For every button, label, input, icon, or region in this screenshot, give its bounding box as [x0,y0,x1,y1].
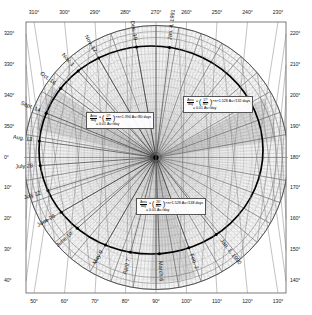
axis-tick-bottom-1: 60° [61,299,69,304]
left-paren: ( [199,99,201,106]
equation-lhs-fraction: Area day [90,115,98,122]
axis-tick-left-4: 0° [4,155,9,160]
axis-tick-left-2: 340° [4,93,14,98]
equation-box-sweep-upper-left: Area day = ( 17° 360° ) ×π×1.394 Au²/80 … [86,112,154,129]
axis-tick-bottom-2: 70° [91,299,99,304]
axis-tick-top-8: 230° [273,10,283,15]
equation-lhs-fraction: Area day [187,99,195,106]
axis-tick-top-7: 240° [242,10,252,15]
polar-plot-canvas [0,0,312,315]
axis-tick-top-1: 300° [59,10,69,15]
axis-tick-bottom-3: 80° [122,299,130,304]
equation-result: = 0.01 Au²/day [89,123,151,127]
axis-tick-top-2: 290° [90,10,100,15]
axis-tick-bottom-5: 100° [181,299,191,304]
equation-rhs: ×π×1.394 Au²/80 days [115,116,151,120]
axis-tick-bottom-7: 120° [242,299,252,304]
equation-result: = 0.01 Au²/day [139,209,203,213]
left-paren: ( [152,201,154,208]
equation-angle-fraction: 26° 360° [155,201,162,208]
equation-box-sweep-lower: Area day = ( 26° 360° ) ×π×1.528 Au²/148… [136,198,206,215]
axis-tick-top-0: 310° [29,10,39,15]
axis-tick-left-5: 10° [4,186,12,191]
equation-lhs-fraction: Area day [140,201,148,208]
axis-tick-bottom-6: 110° [212,299,222,304]
axis-tick-right-3: 190° [290,124,300,129]
axis-tick-left-7: 30° [4,248,12,253]
axis-tick-right-4: 180° [290,155,300,160]
axis-tick-top-5: 260° [181,10,191,15]
axis-tick-bottom-0: 50° [30,299,38,304]
axis-tick-right-7: 150° [290,248,300,253]
axis-tick-right-0: 220° [290,31,300,36]
left-paren: ( [102,115,104,122]
axis-tick-left-8: 40° [4,278,12,283]
axis-tick-right-5: 170° [290,186,300,191]
axis-tick-right-8: 140° [290,278,300,283]
equation-angle-fraction: 17° 360° [202,99,209,106]
axis-tick-right-2: 200° [290,93,300,98]
axis-tick-right-1: 210° [290,62,300,67]
axis-tick-left-0: 320° [4,31,14,36]
equation-angle-fraction: 17° 360° [105,115,112,122]
axis-tick-left-6: 20° [4,217,12,222]
axis-tick-top-6: 250° [212,10,222,15]
axis-tick-top-3: 280° [120,10,130,15]
axis-tick-right-6: 160° [290,217,300,222]
equation-rhs: ×π×1.528 Au²/132 days [212,100,250,104]
axis-tick-top-4: 270° [151,10,161,15]
equation-box-sweep-upper-right: Area day = ( 17° 360° ) ×π×1.528 Au²/132… [183,96,253,113]
axis-tick-bottom-8: 130° [273,299,283,304]
axis-tick-left-1: 330° [4,62,14,67]
polar-orbit-figure: 310°300°290°280°270°260°250°240°230° 50°… [0,0,312,315]
axis-tick-left-3: 350° [4,124,14,129]
orbit-date-label-2: March 6 [157,261,163,281]
equation-result: = 0.01 Au²/day [186,107,250,111]
axis-tick-bottom-4: 90° [152,299,160,304]
equation-rhs: ×π×1.528 Au²/148 days [165,202,203,206]
